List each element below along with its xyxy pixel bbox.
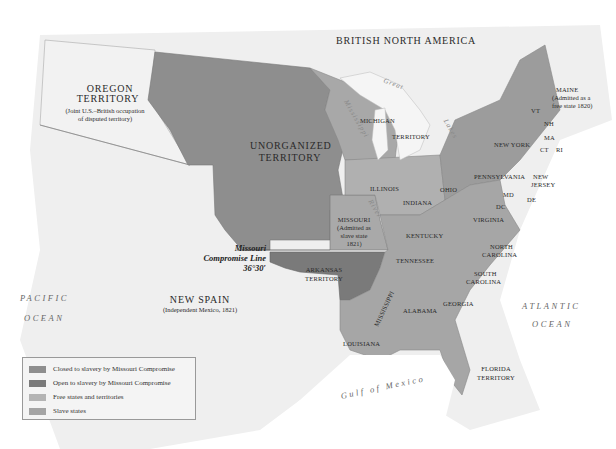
legend-item-slave: Slave states xyxy=(29,404,189,418)
label-unorganized: UNORGANIZED xyxy=(250,140,330,152)
label-michigan-2: TERRITORY xyxy=(392,133,430,140)
label-indiana: INDIANA xyxy=(403,199,432,206)
label-alabama: ALABAMA xyxy=(403,307,437,314)
label-atlantic-2: OCEAN xyxy=(532,320,572,330)
label-nh: NH xyxy=(544,120,554,127)
legend-item-closed: Closed to slavery by Missouri Compromise xyxy=(29,362,189,376)
label-ohio: OHIO xyxy=(440,186,457,193)
label-new-spain-note: (Independent Mexico, 1821) xyxy=(145,306,255,313)
label-new-york: NEW YORK xyxy=(494,141,530,148)
label-new-jersey-2: JERSEY xyxy=(531,181,555,188)
legend-label: Slave states xyxy=(53,407,86,415)
label-arkansas-2: TERRITORY xyxy=(304,275,344,282)
label-oregon-note-1: (Joint U.S.–British occupation xyxy=(45,107,165,114)
label-unorganized-2: TERRITORY xyxy=(250,152,330,164)
legend-item-free: Free states and territories xyxy=(29,390,189,404)
label-oregon-note-2: of disputed territory) xyxy=(45,115,165,122)
label-maine-note-1: (Admitted as a xyxy=(552,94,590,101)
label-south-carolina-2: CAROLINA xyxy=(466,278,501,285)
label-michigan: MICHIGAN xyxy=(360,117,395,124)
legend-swatch-slave xyxy=(29,408,46,415)
label-pennsylvania: PENNSYLVANIA xyxy=(474,173,525,180)
label-new-spain: NEW SPAIN xyxy=(160,294,240,306)
label-new-jersey: NEW xyxy=(533,173,548,180)
label-missouri-note-1: (Admitted as xyxy=(330,224,378,231)
label-missouri: MISSOURI xyxy=(334,216,374,223)
label-arkansas: ARKANSAS xyxy=(304,266,344,273)
label-tennessee: TENNESSEE xyxy=(396,257,434,264)
label-pacific-2: OCEAN xyxy=(24,314,64,324)
label-oregon-2: TERRITORY xyxy=(68,93,148,105)
label-ct: CT xyxy=(540,146,549,153)
label-british-north-america: BRITISH NORTH AMERICA xyxy=(336,35,476,47)
label-maine: MAINE xyxy=(556,86,578,93)
label-virginia: VIRGINIA xyxy=(473,216,504,223)
label-florida: FLORIDA xyxy=(476,365,516,372)
legend-swatch-closed xyxy=(29,366,46,373)
label-ma: MA xyxy=(544,134,555,141)
legend-swatch-free xyxy=(29,394,46,401)
legend-label: Open to slavery by Missouri Compromise xyxy=(53,379,171,387)
label-maine-note-2: free state 1820) xyxy=(552,102,592,109)
label-georgia: GEORGIA xyxy=(443,300,474,307)
label-ri: RI xyxy=(556,146,563,153)
label-illinois: ILLINOIS xyxy=(370,185,399,192)
label-vt: VT xyxy=(531,107,540,114)
legend-label: Free states and territories xyxy=(53,393,124,401)
legend: Closed to slavery by Missouri Compromise… xyxy=(22,357,196,420)
legend-swatch-open xyxy=(29,380,46,387)
label-compromise-line-3: 36°30′ xyxy=(200,264,266,274)
label-de: DE xyxy=(527,196,536,203)
label-dc: DC xyxy=(496,203,505,210)
label-florida-2: TERRITORY xyxy=(476,374,516,381)
label-north-carolina-2: CAROLINA xyxy=(482,251,517,258)
label-south-carolina: SOUTH xyxy=(474,270,497,277)
label-kentucky: KENTUCKY xyxy=(406,232,443,239)
label-atlantic: ATLANTIC xyxy=(522,302,580,312)
legend-label: Closed to slavery by Missouri Compromise xyxy=(53,365,175,373)
label-pacific: PACIFIC xyxy=(20,294,69,304)
label-missouri-note-3: 1821) xyxy=(330,240,378,247)
legend-item-open: Open to slavery by Missouri Compromise xyxy=(29,376,189,390)
label-louisiana: LOUISIANA xyxy=(343,340,380,347)
label-north-carolina: NORTH xyxy=(490,243,513,250)
label-md: MD xyxy=(503,191,514,198)
label-missouri-note-2: slave state xyxy=(330,232,378,239)
